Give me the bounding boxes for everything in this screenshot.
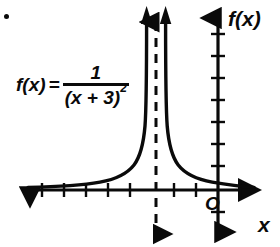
fraction-denominator: (x + 3)2 xyxy=(63,86,129,107)
graph-figure: f(x) x O f(x) = 1 (x + 3)2 xyxy=(0,0,280,247)
x-axis-label: x xyxy=(258,214,270,235)
equation-equals-sign: = xyxy=(49,75,60,94)
curve-right-branch xyxy=(166,22,254,187)
denominator-exponent: 2 xyxy=(120,81,127,95)
fraction-numerator: 1 xyxy=(63,63,129,83)
equation-lhs: f(x) xyxy=(16,75,46,94)
origin-label: O xyxy=(205,194,220,213)
y-axis-label: f(x) xyxy=(228,8,261,29)
function-plot xyxy=(0,0,280,247)
curve-left-arrowhead xyxy=(141,6,152,24)
function-equation: f(x) = 1 (x + 3)2 xyxy=(16,63,129,107)
denominator-base: (x + 3) xyxy=(65,87,120,108)
equation-fraction: 1 (x + 3)2 xyxy=(63,63,129,107)
curve-right-arrowhead xyxy=(160,6,171,24)
